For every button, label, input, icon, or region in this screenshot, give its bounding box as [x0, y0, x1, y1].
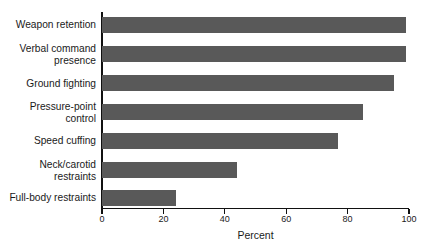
category-label-pressure-point-control: Pressure-point control: [30, 101, 96, 124]
x-tick-label-0: 0: [99, 214, 104, 225]
category-label-weapon-retention: Weapon retention: [16, 19, 96, 31]
bar-pressure-point-control[interactable]: [102, 104, 363, 120]
bar-weapon-retention[interactable]: [102, 17, 406, 33]
bar-verbal-command-presence[interactable]: [102, 46, 406, 62]
category-label-neck-carotid-restraints: Neck/carotid restraints: [39, 159, 96, 182]
x-axis-title: Percent: [102, 229, 409, 241]
bar-full-body-restraints[interactable]: [102, 190, 176, 206]
x-tick-label-40: 40: [220, 214, 230, 225]
bar-row: [102, 46, 409, 62]
bar-row: [102, 104, 409, 120]
category-label-verbal-command-presence: Verbal command presence: [20, 43, 96, 66]
x-tick-label-20: 20: [158, 214, 168, 225]
bar-row: [102, 190, 409, 206]
bar-neck-carotid-restraints[interactable]: [102, 162, 237, 178]
bar-row: [102, 162, 409, 178]
x-tick-label-100: 100: [401, 214, 416, 225]
bar-ground-fighting[interactable]: [102, 75, 394, 91]
category-label-full-body-restraints: Full-body restraints: [9, 192, 96, 204]
bar-row: [102, 17, 409, 33]
category-label-ground-fighting: Ground fighting: [26, 78, 96, 90]
bar-speed-cuffing[interactable]: [102, 133, 338, 149]
bar-chart-figure: Weapon retention Verbal command presence…: [0, 0, 428, 250]
category-label-speed-cuffing: Speed cuffing: [34, 135, 96, 147]
bar-row: [102, 133, 409, 149]
x-tick-label-80: 80: [343, 214, 353, 225]
plot-area: [102, 13, 409, 208]
bar-row: [102, 75, 409, 91]
x-tick-label-60: 60: [281, 214, 291, 225]
